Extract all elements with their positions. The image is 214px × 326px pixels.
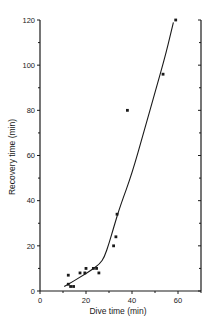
data-point: [116, 213, 119, 216]
chart-svg: 0204060801001200204060 Dive time (min) R…: [0, 0, 214, 326]
y-tick-label: 40: [27, 196, 35, 205]
y-tick-label: 20: [27, 242, 35, 251]
data-point: [67, 274, 70, 277]
x-axis-label: Dive time (min): [89, 306, 146, 316]
y-tick-label: 0: [31, 287, 35, 296]
data-point: [79, 272, 82, 275]
fitted-curve-path: [64, 22, 173, 286]
data-point: [85, 267, 88, 270]
data-points: [67, 19, 177, 288]
data-point: [115, 235, 118, 238]
y-tick-label: 100: [22, 61, 35, 70]
axes: [40, 20, 201, 291]
x-tick-label: 20: [82, 296, 90, 305]
data-point: [83, 272, 86, 275]
data-point: [162, 73, 165, 76]
data-point: [97, 272, 100, 275]
data-point: [72, 285, 75, 288]
data-point: [92, 267, 95, 270]
chart: 0204060801001200204060 Dive time (min) R…: [0, 0, 214, 326]
x-tick-label: 60: [174, 296, 182, 305]
data-point: [112, 244, 115, 247]
x-tick-label: 40: [128, 296, 136, 305]
fitted-curve: [64, 22, 173, 286]
data-point: [174, 19, 177, 22]
y-tick-label: 60: [27, 151, 35, 160]
ticks: 0204060801001200204060: [22, 16, 201, 305]
data-point: [126, 109, 129, 112]
data-point: [95, 267, 98, 270]
y-axis-label: Recovery time (min): [7, 119, 17, 195]
x-tick-label: 0: [38, 296, 42, 305]
data-point: [69, 285, 72, 288]
y-tick-label: 120: [22, 16, 35, 25]
y-tick-label: 80: [27, 106, 35, 115]
